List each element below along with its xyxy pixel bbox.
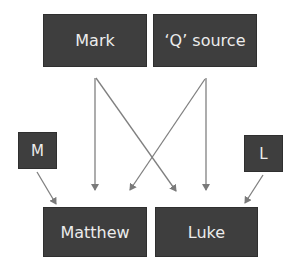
arrow-mark-to-luke	[96, 78, 176, 191]
arrow-l-to-luke	[245, 175, 263, 203]
arrows-layer	[0, 0, 300, 276]
arrow-m-to-matthew	[37, 172, 56, 204]
arrow-q-to-matthew	[130, 79, 205, 190]
